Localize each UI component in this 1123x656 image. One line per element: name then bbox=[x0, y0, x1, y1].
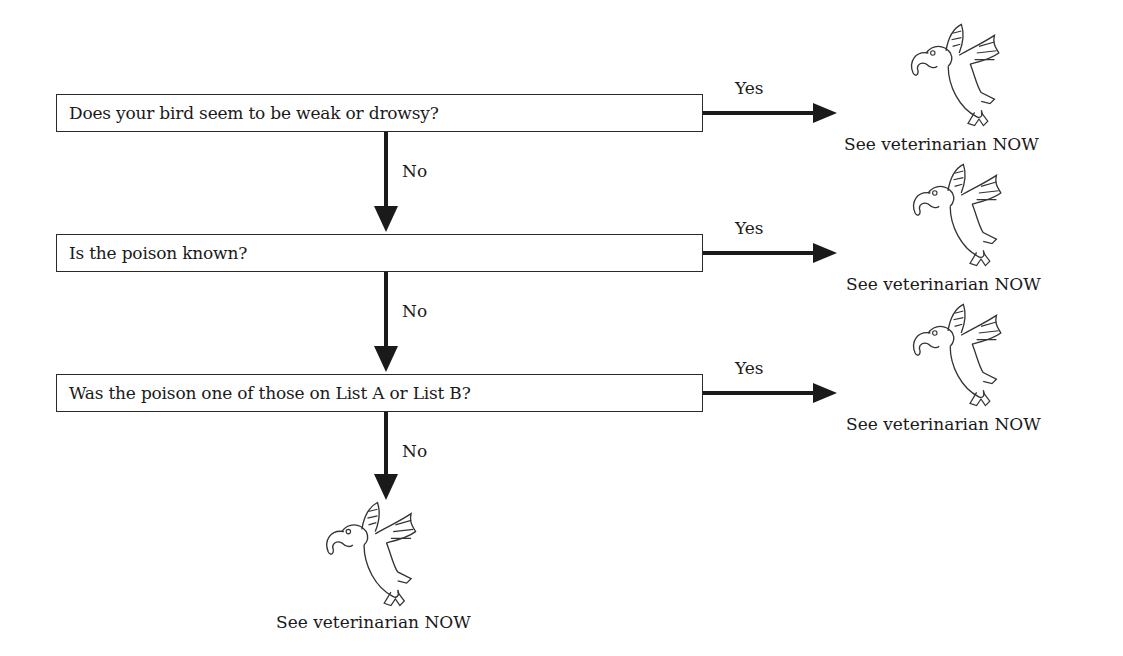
no-arrow-1 bbox=[374, 132, 398, 234]
result-text-2: See veterinarian NOW bbox=[846, 274, 1041, 294]
bird-icon bbox=[902, 20, 1012, 130]
question-text-3: Was the poison one of those on List A or… bbox=[69, 383, 471, 403]
result-text-1: See veterinarian NOW bbox=[844, 134, 1039, 154]
bird-icon bbox=[904, 300, 1014, 410]
no-label-2: No bbox=[402, 301, 427, 321]
no-arrow-2 bbox=[374, 272, 398, 374]
yes-label-3: Yes bbox=[735, 358, 764, 378]
result-text-3: See veterinarian NOW bbox=[846, 414, 1041, 434]
yes-label-1: Yes bbox=[735, 78, 764, 98]
question-text-2: Is the poison known? bbox=[69, 243, 247, 263]
bird-icon bbox=[904, 160, 1014, 270]
no-label-3: No bbox=[402, 441, 427, 461]
yes-arrow-2 bbox=[703, 243, 843, 263]
yes-arrow-3 bbox=[703, 383, 843, 403]
question-box-1: Does your bird seem to be weak or drowsy… bbox=[56, 94, 703, 132]
question-box-3: Was the poison one of those on List A or… bbox=[56, 374, 703, 412]
bird-icon bbox=[318, 498, 428, 610]
no-arrow-3 bbox=[374, 412, 398, 502]
yes-arrow-1 bbox=[703, 103, 843, 123]
question-box-2: Is the poison known? bbox=[56, 234, 703, 272]
question-text-1: Does your bird seem to be weak or drowsy… bbox=[69, 103, 439, 123]
final-result-text: See veterinarian NOW bbox=[276, 612, 471, 632]
no-label-1: No bbox=[402, 161, 427, 181]
yes-label-2: Yes bbox=[735, 218, 764, 238]
